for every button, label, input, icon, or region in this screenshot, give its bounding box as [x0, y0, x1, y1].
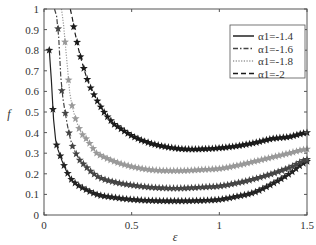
svg-text:1: 1 [34, 3, 40, 15]
svg-text:0.2: 0.2 [25, 168, 39, 180]
star-marker-icon [97, 103, 105, 111]
svg-text:1: 1 [217, 219, 223, 231]
star-marker-icon [80, 64, 88, 72]
star-marker-icon [58, 86, 66, 94]
star-marker-icon [72, 150, 80, 158]
svg-text:1.5: 1.5 [300, 219, 314, 231]
svg-text:0.4: 0.4 [25, 127, 39, 139]
svg-text:0.7: 0.7 [25, 65, 39, 77]
star-marker-icon [90, 91, 98, 99]
legend: α1=-1.4α1=-1.6α1=-1.8α1=-2 [230, 25, 305, 80]
star-marker-icon [76, 53, 84, 61]
star-marker-icon [83, 75, 91, 83]
svg-text:0.9: 0.9 [25, 24, 39, 36]
svg-text:0: 0 [34, 209, 40, 221]
line-chart: 00.511.500.10.20.30.40.50.60.70.80.91 ε … [0, 0, 316, 245]
legend-label-2: α1=-1.6 [258, 43, 293, 55]
legend-label-4: α1=-2 [258, 68, 285, 80]
star-marker-icon [69, 142, 77, 150]
svg-text:0.8: 0.8 [25, 44, 39, 56]
legend-label-1: α1=-1.4 [258, 30, 293, 42]
star-marker-icon [75, 124, 83, 132]
star-marker-icon [68, 101, 76, 109]
star-marker-icon [56, 152, 64, 160]
star-marker-icon [93, 97, 101, 105]
star-marker-icon [72, 114, 80, 122]
x-axis-label: ε [173, 230, 178, 244]
star-marker-icon [53, 141, 61, 149]
star-marker-icon [64, 169, 72, 177]
svg-text:0.3: 0.3 [25, 147, 39, 159]
svg-text:0.5: 0.5 [125, 219, 139, 231]
svg-text:0.5: 0.5 [25, 106, 39, 118]
star-marker-icon [60, 161, 68, 169]
legend-label-3: α1=-1.8 [258, 55, 293, 67]
y-axis-label: f [7, 107, 12, 121]
star-marker-icon [87, 84, 95, 92]
svg-text:0: 0 [41, 219, 47, 231]
svg-text:0.6: 0.6 [25, 85, 39, 97]
svg-text:0.1: 0.1 [25, 188, 39, 200]
